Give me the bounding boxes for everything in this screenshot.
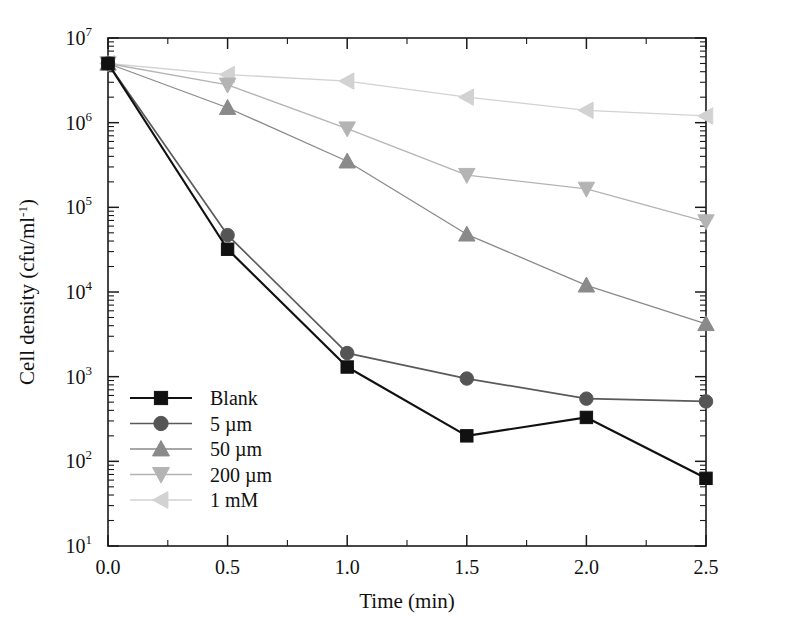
data-point (339, 153, 355, 168)
legend-label: 5 µm (210, 413, 253, 436)
data-point (580, 392, 593, 405)
data-point (699, 395, 712, 408)
data-point (460, 372, 473, 385)
legend-marker (154, 416, 168, 430)
y-tick-label: 101 (66, 532, 93, 557)
plot-frame (108, 38, 706, 546)
legend: Blank5 µm50 µm200 µm1 mM (130, 387, 273, 511)
data-point (102, 57, 114, 69)
line-chart: 1011021031041051061070.00.51.01.52.02.5T… (0, 0, 786, 617)
data-point (578, 182, 594, 197)
data-point (221, 243, 233, 255)
figure-container: 1011021031041051061070.00.51.01.52.02.5T… (0, 0, 786, 617)
data-point (461, 430, 473, 442)
data-point (339, 73, 354, 89)
data-point (578, 277, 594, 292)
y-tick-label: 106 (66, 109, 93, 134)
data-point (459, 89, 474, 105)
data-point (341, 361, 353, 373)
data-point (340, 346, 353, 359)
series-line (108, 63, 706, 478)
data-point (700, 472, 712, 484)
x-tick-label: 2.5 (694, 556, 719, 578)
y-axis-title: Cell density (cfu/ml-1) (15, 199, 39, 385)
legend-label: 200 µm (210, 464, 273, 487)
y-tick-label: 105 (66, 193, 93, 218)
legend-label: 50 µm (210, 438, 263, 461)
data-point (578, 102, 593, 118)
data-point (459, 226, 475, 241)
data-point (339, 122, 355, 137)
legend-label: 1 mM (210, 489, 259, 511)
series-line (108, 63, 706, 115)
data-point (580, 411, 592, 423)
series-5-µm (101, 57, 712, 408)
legend-marker (154, 391, 167, 404)
series-blank (102, 57, 712, 484)
x-axis-title: Time (min) (359, 589, 454, 613)
y-tick-label: 102 (66, 447, 93, 472)
series-200-µm (100, 57, 714, 230)
data-point (221, 228, 234, 241)
x-tick-label: 0.5 (215, 556, 240, 578)
series-line (108, 63, 706, 323)
y-tick-label: 104 (66, 278, 93, 303)
data-point (219, 78, 235, 93)
series-line (108, 63, 706, 401)
x-tick-label: 2.0 (574, 556, 599, 578)
legend-label: Blank (210, 387, 258, 409)
x-tick-label: 1.5 (454, 556, 479, 578)
x-tick-label: 0.0 (96, 556, 121, 578)
data-point (698, 215, 714, 230)
y-tick-label: 107 (66, 24, 93, 49)
x-tick-label: 1.0 (335, 556, 360, 578)
legend-marker (153, 441, 170, 456)
legend-marker (153, 492, 168, 509)
series-1-mm (100, 55, 713, 124)
legend-marker (153, 468, 170, 483)
data-point (219, 100, 235, 115)
y-tick-label: 103 (66, 363, 93, 388)
